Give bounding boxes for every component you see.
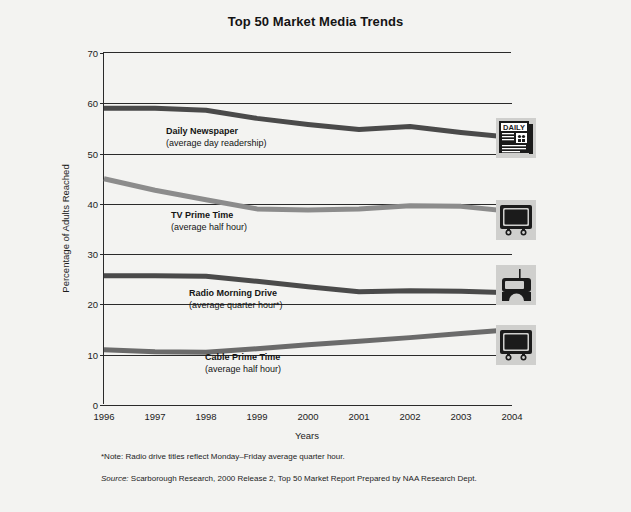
series-name-radio-morning-drive: Radio Morning Drive — [189, 287, 283, 299]
newspaper-icon: DAILY — [496, 118, 536, 158]
y-axis-title-label: Percentage of Adults Reached — [60, 164, 71, 292]
x-axis-tick-label: 1998 — [195, 411, 216, 422]
x-axis-tick-label: 1997 — [144, 411, 165, 422]
television-icon — [496, 200, 536, 240]
y-axis-tick-label: 70 — [87, 48, 98, 59]
y-axis-tick-label: 20 — [87, 299, 98, 310]
footnote-source: Source: Scarborough Research, 2000 Relea… — [101, 474, 477, 483]
radio-icon — [496, 265, 536, 305]
y-axis-tick-label: 0 — [93, 400, 98, 411]
x-axis-tick-label: 2004 — [501, 411, 522, 422]
x-axis-tick-label: 2001 — [348, 411, 369, 422]
series-label-daily-newspaper: Daily Newspaper (average day readership) — [166, 125, 267, 149]
newspaper-masthead-text: DAILY — [503, 123, 525, 132]
footnote-note: *Note: Radio drive titles reflect Monday… — [101, 452, 345, 461]
plot-area: 010203040506070 199619971998199920002001… — [103, 52, 511, 404]
series-line-tv-prime-time — [104, 179, 512, 212]
y-axis-tick-label: 10 — [87, 349, 98, 360]
series-sublabel-cable-prime-time: (average half hour) — [205, 363, 281, 375]
series-label-tv-prime-time: TV Prime Time (average half hour) — [171, 209, 247, 233]
footnote-source-word: Source: — [101, 474, 129, 483]
series-label-radio-morning-drive: Radio Morning Drive (average quarter hou… — [189, 287, 283, 311]
series-label-cable-prime-time: Cable Prime Time (average half hour) — [205, 351, 281, 375]
y-axis-title: Percentage of Adults Reached — [58, 52, 72, 404]
y-axis-tick-label: 40 — [87, 198, 98, 209]
series-line-cable-prime-time — [104, 330, 512, 353]
x-axis-tick-label: 2000 — [297, 411, 318, 422]
x-axis-tick-label: 1996 — [93, 411, 114, 422]
y-axis-tick-label: 50 — [87, 148, 98, 159]
series-line-radio-morning-drive — [104, 276, 512, 293]
series-sublabel-daily-newspaper: (average day readership) — [166, 137, 267, 149]
series-sublabel-tv-prime-time: (average half hour) — [171, 221, 247, 233]
series-sublabel-radio-morning-drive: (average quarter hour*) — [189, 299, 283, 311]
y-axis-tick — [100, 405, 104, 406]
series-name-cable-prime-time: Cable Prime Time — [205, 351, 281, 363]
y-axis-tick-label: 60 — [87, 98, 98, 109]
x-axis-tick-label: 2003 — [450, 411, 471, 422]
series-name-daily-newspaper: Daily Newspaper — [166, 125, 267, 137]
chart-page: Top 50 Market Media Trends Percentage of… — [0, 0, 631, 512]
y-axis-tick-label: 30 — [87, 249, 98, 260]
x-axis-title: Years — [103, 430, 511, 441]
cable-television-icon — [496, 325, 536, 365]
series-name-tv-prime-time: TV Prime Time — [171, 209, 247, 221]
x-axis-tick-label: 1999 — [246, 411, 267, 422]
page-title: Top 50 Market Media Trends — [0, 14, 631, 29]
x-axis-tick-label: 2002 — [399, 411, 420, 422]
gridline — [104, 405, 512, 406]
series-lines — [104, 53, 512, 405]
footnote-source-text: Scarborough Research, 2000 Release 2, To… — [129, 474, 477, 483]
